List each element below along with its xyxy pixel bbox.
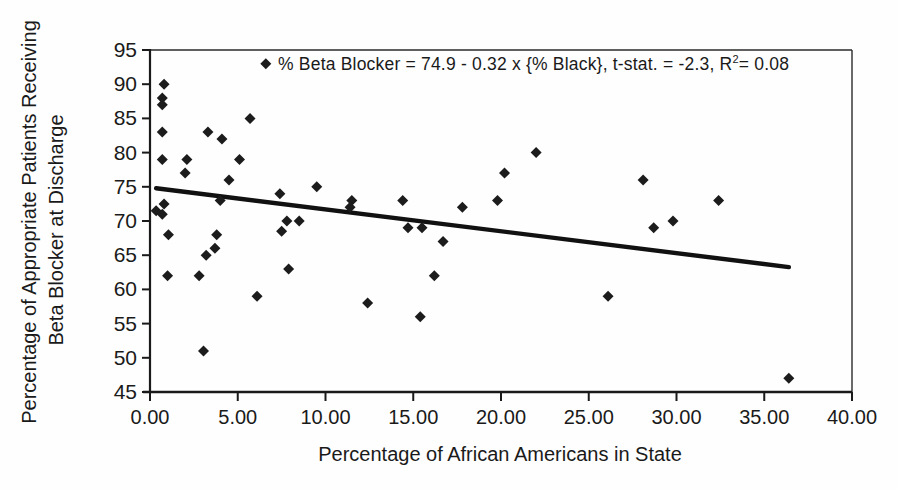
data-point-diamond bbox=[638, 174, 649, 185]
data-point-diamond bbox=[667, 216, 678, 227]
data-point-diamond bbox=[162, 270, 173, 281]
data-point-diamond bbox=[294, 216, 305, 227]
plot-frame bbox=[143, 49, 852, 393]
data-point-diamond bbox=[181, 154, 192, 165]
data-points bbox=[151, 58, 795, 384]
data-point-diamond bbox=[438, 236, 449, 247]
y-axis-title-line1: Percentage of Appropriate Patients Recei… bbox=[18, 20, 40, 424]
data-point-diamond bbox=[713, 195, 724, 206]
data-point-diamond bbox=[783, 373, 794, 384]
data-point-diamond bbox=[194, 270, 205, 281]
axis-tick-labels: 45505560657075808590950.005.0010.0015.00… bbox=[114, 38, 877, 428]
data-point-diamond bbox=[276, 226, 287, 237]
data-point-diamond bbox=[283, 263, 294, 274]
data-point-diamond bbox=[157, 154, 168, 165]
data-point-diamond bbox=[415, 311, 426, 322]
data-point-diamond bbox=[281, 216, 292, 227]
data-point-diamond bbox=[457, 202, 468, 213]
data-point-diamond bbox=[159, 198, 170, 209]
data-point-diamond bbox=[201, 250, 212, 261]
y-tick-label: 90 bbox=[114, 72, 137, 95]
axis-ticks bbox=[142, 50, 852, 401]
y-tick-label: 70 bbox=[114, 209, 137, 232]
trend-line bbox=[156, 188, 789, 267]
data-point-diamond bbox=[252, 291, 263, 302]
x-tick-label: 30.00 bbox=[651, 406, 701, 428]
data-point-diamond bbox=[163, 229, 174, 240]
y-axis-title-line2: Beta Blocker at Discharge bbox=[45, 114, 67, 345]
y-tick-label: 85 bbox=[114, 106, 137, 129]
regression-annotation-text: % Beta Blocker = 74.9 - 0.32 x {% Black}… bbox=[278, 54, 732, 74]
regression-annotation: % Beta Blocker = 74.9 - 0.32 x {% Black}… bbox=[278, 54, 789, 75]
data-point-diamond bbox=[492, 195, 503, 206]
x-tick-label: 15.00 bbox=[388, 406, 438, 428]
data-point-diamond bbox=[402, 222, 413, 233]
data-point-diamond bbox=[209, 243, 220, 254]
data-point-diamond bbox=[211, 229, 222, 240]
data-point-diamond bbox=[157, 127, 168, 138]
x-axis-title: Percentage of African Americans in State bbox=[318, 443, 682, 465]
trend-line-group bbox=[156, 188, 789, 267]
data-point-diamond bbox=[362, 298, 373, 309]
data-point-diamond bbox=[648, 222, 659, 233]
y-tick-label: 80 bbox=[114, 141, 137, 164]
x-tick-label: 10.00 bbox=[300, 406, 350, 428]
data-point-diamond bbox=[223, 174, 234, 185]
x-tick-label: 20.00 bbox=[476, 406, 526, 428]
data-point-diamond bbox=[202, 127, 213, 138]
data-point-diamond bbox=[159, 79, 170, 90]
data-point-diamond bbox=[397, 195, 408, 206]
data-point-diamond bbox=[245, 113, 256, 124]
x-tick-label: 5.00 bbox=[218, 406, 257, 428]
data-point-diamond bbox=[603, 291, 614, 302]
data-point-diamond bbox=[216, 133, 227, 144]
data-point-diamond bbox=[311, 181, 322, 192]
x-tick-label: 35.00 bbox=[739, 406, 789, 428]
data-point-diamond bbox=[157, 99, 168, 110]
data-point-diamond bbox=[531, 147, 542, 158]
data-point-diamond bbox=[260, 58, 271, 69]
data-point-diamond bbox=[198, 345, 209, 356]
y-tick-label: 65 bbox=[114, 243, 137, 266]
data-point-diamond bbox=[180, 168, 191, 179]
y-tick-label: 60 bbox=[114, 277, 137, 300]
y-tick-label: 45 bbox=[114, 380, 137, 403]
x-tick-label: 25.00 bbox=[564, 406, 614, 428]
data-point-diamond bbox=[499, 168, 510, 179]
regression-annotation-suffix: = 0.08 bbox=[739, 54, 789, 74]
y-tick-label: 50 bbox=[114, 346, 137, 369]
y-tick-label: 75 bbox=[114, 175, 137, 198]
x-tick-label: 0.00 bbox=[131, 406, 170, 428]
y-tick-label: 95 bbox=[114, 38, 137, 61]
data-point-diamond bbox=[274, 188, 285, 199]
data-point-diamond bbox=[234, 154, 245, 165]
scatter-chart-figure: 45505560657075808590950.005.0010.0015.00… bbox=[0, 0, 898, 490]
y-tick-label: 55 bbox=[114, 312, 137, 335]
x-tick-label: 40.00 bbox=[827, 406, 877, 428]
data-point-diamond bbox=[429, 270, 440, 281]
